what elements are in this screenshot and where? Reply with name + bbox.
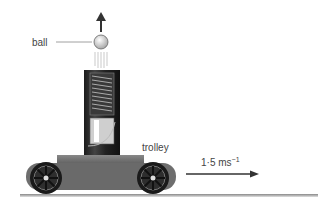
ground-line (20, 194, 318, 197)
velocity-label: 1·5 ms−1 (201, 156, 240, 168)
spring-launcher (84, 70, 120, 156)
ball-label: ball (32, 37, 48, 48)
ball (94, 35, 108, 49)
velocity-value: 1·5 ms (201, 157, 232, 168)
velocity-exponent: −1 (232, 156, 240, 163)
trolley (26, 155, 176, 194)
wheel-right (137, 162, 169, 194)
motion-lines (95, 52, 107, 68)
trolley-label: trolley (142, 142, 169, 153)
wheel-left (30, 162, 62, 194)
trolley-diagram: ball trolley (0, 0, 318, 207)
arrow-up-icon (96, 12, 106, 32)
arrow-right-icon (186, 171, 259, 178)
